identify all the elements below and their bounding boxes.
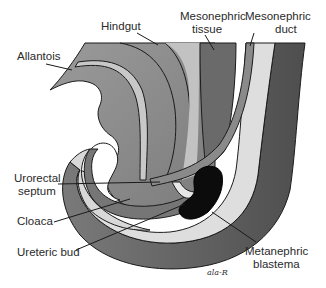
label-hindgut: Hindgut <box>101 20 141 33</box>
mesonephric-tissue-strip <box>200 43 236 162</box>
label-mesonephric-tissue-line1: Mesonephric <box>180 10 246 23</box>
label-mesonephric-tissue-line2: tissue <box>192 23 222 36</box>
artist-signature: ala-R <box>207 268 228 277</box>
leader-allantois <box>46 64 72 70</box>
label-mesonephric-duct-line1: Mesonephric <box>245 10 311 23</box>
label-metanephric-blastema-line1: Metanephric <box>245 245 308 258</box>
label-mesonephric-duct-line2: duct <box>275 23 297 36</box>
label-allantois: Allantois <box>17 50 60 63</box>
label-ureteric-bud: Ureteric bud <box>17 246 80 259</box>
label-urorectal-septum-line2: septum <box>18 185 56 198</box>
label-cloaca: Cloaca <box>17 215 53 228</box>
label-urorectal-septum-line1: Urorectal <box>14 172 61 185</box>
label-metanephric-blastema-line2: blastema <box>253 258 300 271</box>
urogenital-diagram: Allantois Hindgut Mesonephric tissue Mes… <box>0 0 326 288</box>
